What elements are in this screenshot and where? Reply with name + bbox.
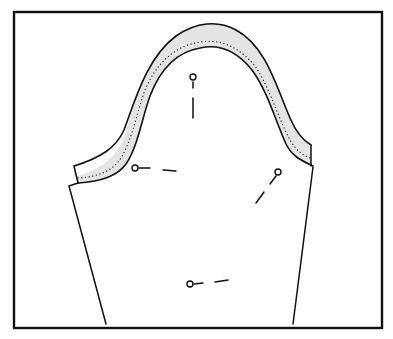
pin-head-icon [187, 281, 193, 287]
pin-shaft-hidden-dash [256, 192, 264, 203]
pin-right [256, 169, 281, 203]
pin-head-icon [190, 74, 196, 80]
pin-shaft-hidden-dash [215, 280, 228, 282]
sleeve-right-seam [293, 167, 313, 324]
pin-shaft [270, 176, 276, 184]
pin-top [190, 74, 196, 118]
pin-bottom [187, 280, 228, 287]
pin-shaft [194, 283, 203, 284]
pin-head-icon [275, 169, 281, 175]
pins [132, 74, 281, 287]
diagram-frame [14, 12, 382, 328]
sleeve-pattern-diagram [0, 0, 393, 339]
sleeve-left-seam [69, 183, 106, 324]
pin-shaft-hidden-dash [163, 170, 176, 171]
pin-left [132, 165, 176, 171]
pin-head-icon [132, 165, 138, 171]
